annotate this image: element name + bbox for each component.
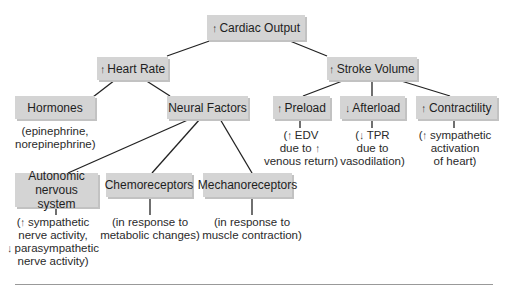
note-preload: (↑EDV due to ↑ venous return) (262, 129, 340, 168)
edge-neural-chemo (152, 119, 200, 173)
note-line: activation (414, 142, 496, 155)
down-arrow-icon: ↓ (360, 129, 364, 142)
edge-sv-contractility (398, 80, 450, 96)
down-arrow-icon: ↓ (8, 242, 12, 255)
node-label: Stroke Volume (337, 62, 415, 76)
up-arrow-icon: ↑ (316, 142, 320, 155)
note-text: EDV (295, 129, 319, 141)
edge-hr-neural (145, 80, 170, 96)
note-mechanoreceptors: (in response to muscle contraction) (198, 216, 306, 242)
note-contractility: (↑sympathetic activation of heart) (414, 129, 496, 168)
paren: ( (355, 129, 359, 141)
node-label: Preload (285, 101, 326, 115)
up-arrow-icon: ↑ (213, 21, 217, 35)
note-line: muscle contraction) (198, 229, 306, 242)
edge-sv-preload (303, 80, 345, 96)
node-contractility: ↑Contractility (416, 96, 497, 119)
edge-hr-hormones (93, 80, 115, 97)
up-arrow-icon: ↑ (330, 62, 334, 76)
node-label: Cardiac Output (219, 21, 300, 35)
node-label: Hormones (27, 101, 82, 115)
paren: ( (284, 129, 288, 141)
note-line: ↓parasympathetic (3, 242, 103, 255)
note-line: nerve activity) (3, 255, 103, 268)
up-arrow-icon: ↑ (288, 129, 292, 142)
node-neural-factors: Neural Factors (167, 96, 248, 119)
node-mechanoreceptors: Mechanoreceptors (203, 173, 292, 197)
note-text: parasympathetic (15, 242, 99, 254)
note-line: (↓TPR (335, 129, 410, 142)
node-preload: ↑Preload (273, 96, 330, 119)
note-line: norepinephrine) (15, 138, 95, 151)
node-label-line1: Autonomic (28, 169, 85, 183)
note-line: (↑sympathetic (414, 129, 496, 142)
note-line: due to ↑ (262, 142, 340, 155)
node-chemoreceptors: Chemoreceptors (106, 173, 192, 197)
note-line: metabolic changes) (100, 229, 200, 242)
node-heart-rate: ↑Heart Rate (97, 57, 168, 80)
note-text: TPR (367, 129, 390, 141)
node-label: Contractility (429, 101, 492, 115)
node-stroke-volume: ↑Stroke Volume (327, 57, 417, 80)
note-line: (↑sympathetic (3, 216, 103, 229)
note-line: nerve activity, (3, 229, 103, 242)
edge-co-sv (285, 39, 327, 56)
node-hormones: Hormones (15, 96, 95, 119)
note-line: (in response to (198, 216, 306, 229)
node-label: Chemoreceptors (105, 178, 194, 192)
note-line: due to (335, 142, 410, 155)
bottom-divider (15, 284, 493, 285)
note-text: sympathetic (430, 129, 491, 141)
note-line: (in response to (100, 216, 200, 229)
up-arrow-icon: ↑ (101, 62, 105, 76)
node-cardiac-output: ↑Cardiac Output (207, 15, 305, 40)
note-hormones: (epinephrine, norepinephrine) (15, 125, 95, 151)
node-label: Neural Factors (168, 101, 247, 115)
node-afterload: ↓Afterload (340, 96, 405, 119)
note-line: (epinephrine, (15, 125, 95, 138)
edge-co-hr (167, 39, 215, 56)
note-line: (↑EDV (262, 129, 340, 142)
note-line: of heart) (414, 155, 496, 168)
node-label: Mechanoreceptors (198, 178, 297, 192)
note-line: vasodilation) (335, 155, 410, 168)
node-label: Afterload (352, 101, 400, 115)
note-text: due to (280, 142, 312, 154)
note-chemoreceptors: (in response to metabolic changes) (100, 216, 200, 242)
up-arrow-icon: ↑ (422, 101, 426, 115)
node-label-line2: nervous system (15, 183, 98, 211)
node-autonomic-nervous-system: Autonomic nervous system (15, 173, 98, 207)
node-label: Heart Rate (107, 62, 165, 76)
note-text: sympathetic (28, 216, 89, 228)
up-arrow-icon: ↑ (278, 101, 282, 115)
up-arrow-icon: ↑ (423, 129, 427, 142)
down-arrow-icon: ↓ (346, 101, 350, 115)
note-line: venous return) (262, 155, 340, 168)
up-arrow-icon: ↑ (21, 216, 25, 229)
note-autonomic: (↑sympathetic nerve activity, ↓parasympa… (3, 216, 103, 268)
edge-neural-mechano (220, 119, 252, 173)
note-afterload: (↓TPR due to vasodilation) (335, 129, 410, 168)
